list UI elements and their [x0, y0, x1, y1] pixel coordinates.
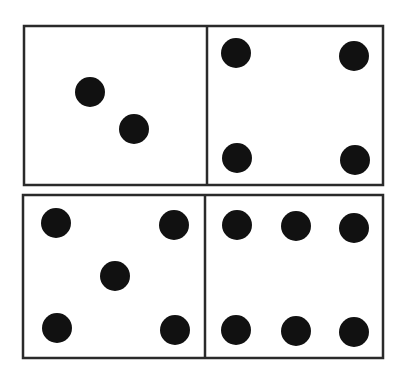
domino-outline [23, 195, 383, 358]
pip-icon [222, 143, 252, 173]
pip-icon [159, 210, 189, 240]
dominoes-diagram [0, 0, 400, 379]
domino-top [24, 26, 383, 185]
pip-icon [42, 313, 72, 343]
pip-icon [340, 145, 370, 175]
pip-icon [119, 114, 149, 144]
domino-bottom [23, 195, 383, 358]
pip-icon [281, 211, 311, 241]
pip-icon [221, 315, 251, 345]
pip-icon [339, 317, 369, 347]
domino-outline [24, 26, 383, 185]
pip-icon [160, 315, 190, 345]
pip-icon [221, 38, 251, 68]
pip-icon [281, 316, 311, 346]
pip-icon [222, 210, 252, 240]
pip-icon [41, 208, 71, 238]
pip-icon [75, 77, 105, 107]
pip-icon [339, 41, 369, 71]
pip-icon [339, 213, 369, 243]
pip-icon [100, 261, 130, 291]
